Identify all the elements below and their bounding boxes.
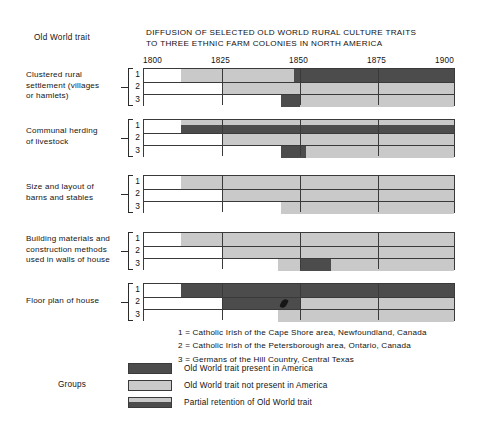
bar-row[interactable] [144, 284, 454, 297]
row-numbers-2: 123 [133, 119, 142, 157]
group-bracket-stem-3 [121, 194, 128, 195]
trait-plot-3 [143, 175, 455, 213]
footnote-2: 2 = Catholic Irish of the Petersborough … [178, 339, 427, 352]
bar-row[interactable] [144, 258, 454, 271]
row-number: 3 [133, 146, 142, 155]
trait-group-4: Building materials andconstruction metho… [0, 232, 478, 270]
trait-label-line: Size and layout of [26, 182, 130, 193]
bar-row[interactable] [144, 201, 454, 214]
chart-root: Old World trait DIFFUSION OF SELECTED OL… [0, 0, 478, 421]
x-axis-tick-1800: 1800 [143, 56, 162, 65]
row-number: 1 [133, 121, 142, 130]
row-number: 3 [133, 202, 142, 211]
bar-row[interactable] [144, 309, 454, 322]
group-bracket-stem-5 [121, 302, 128, 303]
trait-plot-1 [143, 68, 455, 106]
bar-segment-present [300, 259, 331, 271]
trait-label-line: of livestock [26, 137, 130, 148]
legend-item-partial[interactable]: Partial retention of Old World trait [128, 397, 428, 408]
legend: Groups Old World trait present in Americ… [0, 363, 478, 415]
group-key-footnotes: 1 = Catholic Irish of the Cape Shore are… [178, 326, 427, 366]
trait-label-line: or hamlets) [26, 91, 130, 102]
chart-title: DIFFUSION OF SELECTED OLD WORLD RURAL CU… [146, 28, 462, 49]
row-numbers-3: 123 [133, 175, 142, 213]
trait-label-4: Building materials andconstruction metho… [26, 234, 130, 266]
trait-label-line: construction methods [26, 245, 130, 256]
legend-swatch-absent [128, 380, 172, 391]
bar-segment-partial [181, 120, 454, 133]
bar-segment-absent [222, 134, 454, 146]
bar-segment-absent [222, 83, 454, 95]
legend-label-partial: Partial retention of Old World trait [184, 398, 312, 407]
row-number: 2 [133, 189, 142, 198]
x-axis-tick-1850: 1850 [289, 56, 308, 65]
row-number: 2 [133, 297, 142, 306]
bar-segment-absent [181, 233, 454, 246]
row-number: 2 [133, 246, 142, 255]
x-axis-tick-1875: 1875 [367, 56, 386, 65]
bar-segment-absent [300, 95, 454, 107]
bar-row[interactable] [144, 189, 454, 202]
bar-row[interactable] [144, 297, 454, 310]
chart-title-line-2: TO THREE ETHNIC FARM COLONIES IN NORTH A… [146, 39, 462, 50]
bar-segment-absent [222, 247, 454, 259]
bar-segment-absent [278, 259, 300, 271]
trait-label-line: Communal herding [26, 126, 130, 137]
x-axis-tick-labels: 18001825185018751900 [143, 56, 455, 68]
trait-group-2: Communal herdingof livestock123 [0, 119, 478, 157]
bar-segment-absent [181, 176, 454, 189]
bar-row[interactable] [144, 82, 454, 95]
bar-segment-absent [306, 146, 454, 158]
legend-title: Groups [58, 380, 86, 389]
bar-segment-absent [181, 69, 293, 82]
group-bracket-stem-2 [121, 138, 128, 139]
trait-label-line: barns and stables [26, 193, 130, 204]
trait-plot-4 [143, 232, 455, 270]
bar-segment-absent [300, 298, 454, 310]
trait-group-1: Clustered ruralsettlement (villagesor ha… [0, 68, 478, 106]
trait-label-2: Communal herdingof livestock [26, 126, 130, 147]
row-number: 1 [133, 70, 142, 79]
row-number: 3 [133, 310, 142, 319]
bar-row[interactable] [144, 69, 454, 82]
bar-row[interactable] [144, 120, 454, 133]
trait-plot-2 [143, 119, 455, 157]
row-number: 3 [133, 259, 142, 268]
bar-row[interactable] [144, 176, 454, 189]
bar-row[interactable] [144, 94, 454, 107]
trait-label-1: Clustered ruralsettlement (villagesor ha… [26, 70, 130, 102]
trait-group-5: Floor plan of house123 [0, 283, 478, 321]
bar-segment-present [281, 146, 306, 158]
legend-item-present[interactable]: Old World trait present in America [128, 363, 428, 374]
legend-item-absent[interactable]: Old World trait not present in America [128, 380, 428, 391]
bar-segment-present [294, 69, 454, 82]
row-number: 2 [133, 133, 142, 142]
x-axis-tick-1900: 1900 [435, 56, 454, 65]
row-number: 1 [133, 285, 142, 294]
x-axis-tick-1825: 1825 [211, 56, 230, 65]
bar-segment-absent [281, 202, 454, 214]
trait-label-5: Floor plan of house [26, 296, 130, 307]
bar-row[interactable] [144, 233, 454, 246]
row-numbers-1: 123 [133, 68, 142, 106]
legend-swatch-partial [128, 397, 172, 408]
trait-label-line: settlement (villages [26, 81, 130, 92]
row-number: 3 [133, 95, 142, 104]
trait-group-3: Size and layout ofbarns and stables123 [0, 175, 478, 213]
footnote-1: 1 = Catholic Irish of the Cape Shore are… [178, 326, 427, 339]
trait-label-line: Floor plan of house [26, 296, 130, 307]
bar-row[interactable] [144, 133, 454, 146]
bar-row[interactable] [144, 145, 454, 158]
old-world-trait-header: Old World trait [34, 33, 90, 42]
row-number: 2 [133, 82, 142, 91]
legend-label-present: Old World trait present in America [184, 364, 313, 373]
row-numbers-5: 123 [133, 283, 142, 321]
bar-segment-present [281, 95, 300, 107]
chart-title-line-1: DIFFUSION OF SELECTED OLD WORLD RURAL CU… [146, 28, 462, 39]
legend-swatch-present [128, 363, 172, 374]
trait-label-line: used in walls of house [26, 255, 130, 266]
bar-row[interactable] [144, 246, 454, 259]
row-number: 1 [133, 234, 142, 243]
trait-label-3: Size and layout ofbarns and stables [26, 182, 130, 203]
legend-label-absent: Old World trait not present in America [184, 381, 328, 390]
